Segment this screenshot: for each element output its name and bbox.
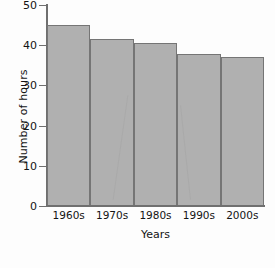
y-tick-label-wrap: 40	[0, 45, 37, 46]
bar-2000s	[221, 57, 264, 206]
y-tick-mark	[39, 5, 46, 6]
x-axis-tick-labels: 1960s1970s1980s1990s2000s	[47, 209, 264, 225]
y-tick-label-wrap: 30	[0, 85, 37, 86]
bar-chart-figure: Number of hours 01020304050 1960s1970s19…	[0, 0, 275, 268]
y-tick-mark	[39, 126, 46, 127]
bar-1960s	[47, 25, 90, 206]
x-tick-label-1990s: 1990s	[177, 209, 220, 221]
y-tick-mark	[39, 45, 46, 46]
y-tick-label: 20	[3, 121, 37, 132]
y-tick-mark	[39, 85, 46, 86]
y-tick-label-wrap: 50	[0, 5, 37, 6]
y-tick-mark	[39, 166, 46, 167]
y-tick-label: 0	[3, 201, 37, 212]
y-tick-mark	[39, 206, 46, 207]
y-tick-label: 10	[3, 161, 37, 172]
x-tick-label-1970s: 1970s	[90, 209, 133, 221]
y-tick-label: 50	[3, 0, 37, 11]
x-axis-title: Years	[47, 228, 264, 241]
bar-1990s	[177, 54, 220, 206]
y-tick-label-wrap: 10	[0, 166, 37, 167]
x-tick-label-1960s: 1960s	[47, 209, 90, 221]
x-tick-label-1980s: 1980s	[134, 209, 177, 221]
y-tick-label: 40	[3, 40, 37, 51]
bar-1980s	[134, 43, 177, 206]
y-tick-label: 30	[3, 80, 37, 91]
bar-1970s	[90, 39, 133, 206]
y-tick-label-wrap: 0	[0, 206, 37, 207]
x-axis-line	[46, 205, 265, 207]
y-tick-label-wrap: 20	[0, 126, 37, 127]
bars-container	[47, 5, 264, 206]
x-tick-label-2000s: 2000s	[221, 209, 264, 221]
